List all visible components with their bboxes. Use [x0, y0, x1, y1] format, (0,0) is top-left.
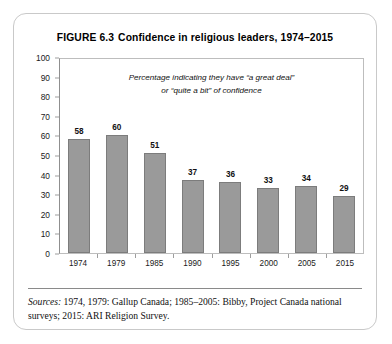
- y-tick-label: 40: [41, 171, 50, 181]
- x-tick-label: 1974: [69, 259, 87, 268]
- bar-value-label: 58: [74, 127, 83, 136]
- bar[interactable]: [219, 182, 241, 253]
- bar[interactable]: [257, 188, 279, 253]
- x-tick-mark: [135, 254, 136, 258]
- bar-slot: 37: [174, 59, 212, 253]
- bar-value-label: 36: [226, 170, 235, 179]
- y-tick-label: 30: [41, 190, 50, 200]
- x-tick-label: 1979: [107, 259, 125, 268]
- bar-value-label: 33: [264, 176, 273, 185]
- y-axis: 0102030405060708090100: [28, 58, 54, 254]
- figure-title-text: Confidence in religious leaders, 1974–20…: [118, 32, 333, 43]
- bar-slot: 29: [325, 59, 363, 253]
- bar-value-label: 51: [150, 141, 159, 150]
- plot-area: Percentage indicating they have “a great…: [59, 58, 364, 254]
- bar-slot: 34: [287, 59, 325, 253]
- bar[interactable]: [182, 180, 204, 253]
- figure-number: FIGURE 6.3: [57, 32, 114, 43]
- sources-note: Sources: 1974, 1979: Gallup Canada; 1985…: [28, 295, 362, 322]
- bar-slot: 58: [60, 59, 98, 253]
- y-tick-mark: [55, 136, 59, 137]
- y-tick-mark: [55, 97, 59, 98]
- bar[interactable]: [333, 196, 355, 253]
- y-tick-mark: [55, 195, 59, 196]
- x-tick-mark: [250, 254, 251, 258]
- x-tick-label: 2015: [336, 259, 354, 268]
- x-tick-label: 1995: [221, 259, 239, 268]
- bar[interactable]: [144, 153, 166, 253]
- x-tick-mark: [288, 254, 289, 258]
- x-tick-mark: [173, 254, 174, 258]
- x-tick-mark: [97, 254, 98, 258]
- bars-layer: 5860513736333429: [60, 59, 363, 253]
- y-tick-mark: [55, 77, 59, 78]
- x-tick-label: 1990: [183, 259, 201, 268]
- x-axis: 19741979198519901995200020052015: [59, 259, 364, 275]
- y-tick-label: 20: [41, 210, 50, 220]
- y-tick-mark: [55, 175, 59, 176]
- chart-plot-wrapper: 0102030405060708090100 Percentage indica…: [28, 58, 364, 278]
- y-tick-mark: [55, 116, 59, 117]
- y-tick-label: 70: [41, 112, 50, 122]
- x-tick-label: 1985: [145, 259, 163, 268]
- bar[interactable]: [106, 135, 128, 253]
- bar-slot: 51: [136, 59, 174, 253]
- bar-slot: 36: [212, 59, 250, 253]
- figure-card: FIGURE 6.3Confidence in religious leader…: [13, 13, 377, 330]
- x-tick-label: 2005: [298, 259, 316, 268]
- y-tick-mark: [55, 214, 59, 215]
- y-tick-label: 60: [41, 131, 50, 141]
- bar-slot: 33: [249, 59, 287, 253]
- y-tick-mark: [55, 58, 59, 59]
- sources-label: Sources:: [28, 296, 61, 307]
- y-tick-label: 100: [36, 53, 50, 63]
- x-tick-mark: [212, 254, 213, 258]
- bar-slot: 60: [98, 59, 136, 253]
- bar-value-label: 60: [112, 123, 121, 132]
- figure-title: FIGURE 6.3Confidence in religious leader…: [14, 32, 376, 43]
- y-tick-label: 50: [41, 151, 50, 161]
- y-tick-label: 80: [41, 92, 50, 102]
- y-tick-mark: [55, 156, 59, 157]
- bar[interactable]: [295, 186, 317, 253]
- source-divider: [28, 288, 362, 289]
- y-tick-mark: [55, 254, 59, 255]
- x-tick-mark: [326, 254, 327, 258]
- y-tick-mark: [55, 234, 59, 235]
- y-tick-label: 10: [41, 229, 50, 239]
- y-tick-label: 90: [41, 73, 50, 83]
- y-tick-label: 0: [45, 249, 50, 259]
- x-tick-label: 2000: [260, 259, 278, 268]
- bar[interactable]: [68, 139, 90, 253]
- bar-value-label: 29: [340, 184, 349, 193]
- sources-text: 1974, 1979: Gallup Canada; 1985–2005: Bi…: [28, 296, 342, 321]
- bar-value-label: 34: [302, 174, 311, 183]
- bar-value-label: 37: [188, 168, 197, 177]
